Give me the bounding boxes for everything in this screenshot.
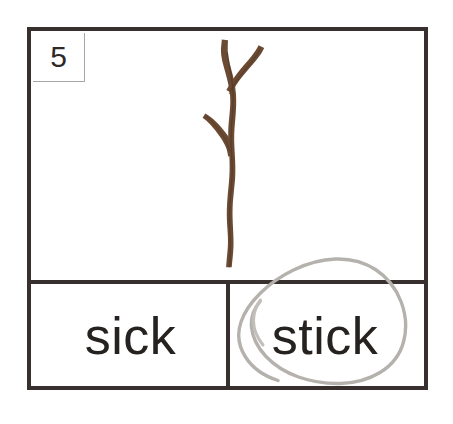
item-number-badge: 5 bbox=[33, 33, 85, 82]
item-number-text: 5 bbox=[50, 42, 67, 72]
answer-option-stick[interactable]: stick bbox=[230, 284, 424, 388]
worksheet-item: 5 sick stick bbox=[0, 0, 453, 424]
answer-option-sick[interactable]: sick bbox=[31, 284, 226, 388]
picture-panel bbox=[31, 31, 424, 282]
answer-label-stick: stick bbox=[272, 310, 379, 362]
stick-illustration bbox=[31, 31, 424, 282]
answer-label-sick: sick bbox=[85, 310, 177, 362]
